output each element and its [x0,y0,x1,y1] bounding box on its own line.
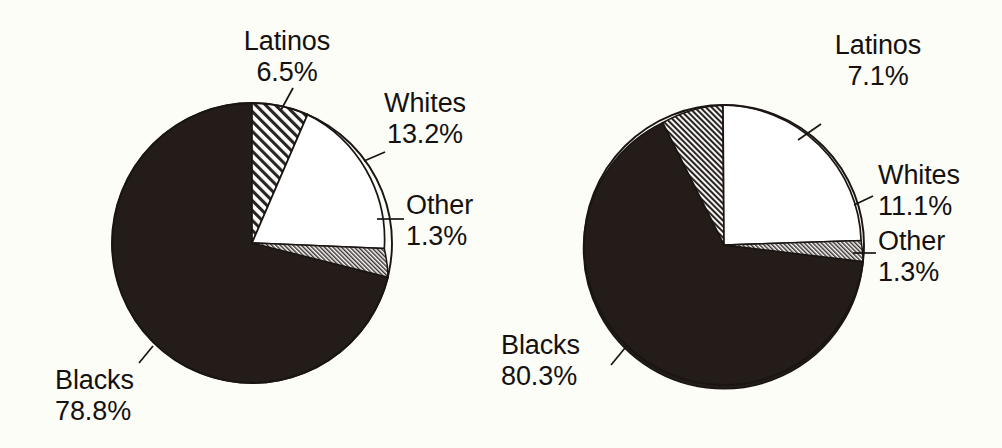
pie-label-blacks-name: Blacks [501,330,661,361]
pie-label-whites-value: 13.2% [363,119,487,150]
pie-label-blacks: Blacks 78.8% [55,365,215,427]
pie-slice-whites [723,105,861,245]
pie-label-latinos-value: 6.5% [222,57,352,88]
pie-label-whites: Whites 11.1% [878,160,998,222]
leader-line-whites [364,152,385,161]
pie-label-other-name: Other [878,226,988,257]
pie-label-whites-value: 11.1% [878,191,998,222]
pie-label-blacks-name: Blacks [55,365,215,396]
pie-label-latinos-name: Latinos [813,30,943,61]
pie-label-latinos: Latinos 6.5% [222,26,352,88]
pie-label-whites: Whites 13.2% [363,88,487,150]
leader-line-blacks [139,346,153,363]
pie-label-blacks-value: 80.3% [501,361,661,392]
pie-label-other: Other 1.3% [878,226,988,288]
pie-label-whites-name: Whites [878,160,998,191]
pie-label-whites-name: Whites [363,88,487,119]
pie-chart-panel-left: Latinos 6.5% Whites 13.2% Other 1.3% Bla… [0,0,501,448]
pie-label-latinos: Latinos 7.1% [813,30,943,92]
pie-chart-panel-right: Latinos 7.1% Whites 11.1% Other 1.3% Bla… [501,0,1002,448]
pie-label-latinos-name: Latinos [222,26,352,57]
pie-label-blacks: Blacks 80.3% [501,330,661,392]
two-pie-chart-figure: Latinos 6.5% Whites 13.2% Other 1.3% Bla… [0,0,1002,448]
pie-label-other-name: Other [406,190,506,221]
pie-label-other-value: 1.3% [406,221,506,252]
pie-label-other: Other 1.3% [406,190,506,252]
pie-label-other-value: 1.3% [878,257,988,288]
pie-label-latinos-value: 7.1% [813,61,943,92]
pie-label-blacks-value: 78.8% [55,396,215,427]
